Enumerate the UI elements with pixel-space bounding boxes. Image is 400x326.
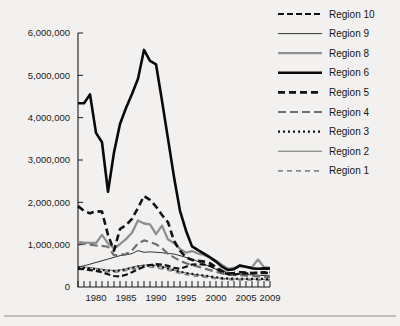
legend-label: Region 9 [329, 28, 369, 39]
y-tick-label: 1,000,000 [28, 239, 70, 250]
x-tick-label: 1995 [175, 292, 196, 303]
legend-label: Region 10 [329, 9, 375, 20]
x-tick-label: 1985 [115, 292, 136, 303]
x-tick-label: 1980 [85, 292, 106, 303]
line-chart: 01,000,0002,000,0003,000,0004,000,0005,0… [0, 0, 400, 326]
legend-label: Region 6 [329, 67, 369, 78]
y-tick-label: 6,000,000 [28, 27, 70, 38]
y-tick-label: 3,000,000 [28, 154, 70, 165]
legend-label: Region 8 [329, 48, 369, 59]
legend-label: Region 2 [329, 146, 369, 157]
y-tick-label: 5,000,000 [28, 70, 70, 81]
x-tick-label: 2000 [205, 292, 226, 303]
x-tick-label: 2005 [235, 292, 256, 303]
x-tick-label: 2009 [259, 292, 280, 303]
legend-label: Region 5 [329, 87, 369, 98]
legend-label: Region 3 [329, 126, 369, 137]
x-axis-tick-labels: 1980198519901995200020052009 [85, 292, 280, 303]
legend-label: Region 4 [329, 107, 369, 118]
y-tick-label: 2,000,000 [28, 197, 70, 208]
y-tick-label: 4,000,000 [28, 112, 70, 123]
y-tick-label: 0 [65, 281, 70, 292]
legend-label: Region 1 [329, 165, 369, 176]
x-tick-label: 1990 [145, 292, 166, 303]
